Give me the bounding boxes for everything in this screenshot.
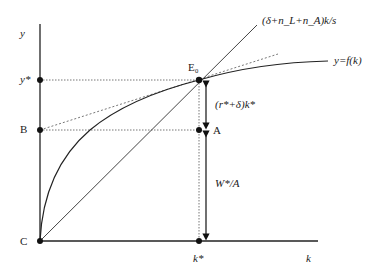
lower-segment-label: W*/A [215, 178, 239, 189]
x-axis-label: k [306, 253, 311, 264]
k-star-label: k* [193, 253, 203, 264]
a-label: A [213, 125, 221, 136]
ray-line [40, 25, 257, 241]
y-star-label: y* [20, 74, 30, 85]
point-c [37, 238, 43, 244]
ray-label: (δ+n_L+n_A)k/s [262, 15, 336, 26]
upper-segment-label: (r*+δ)k* [215, 99, 255, 110]
point-e0 [196, 77, 202, 83]
point-a [196, 127, 202, 133]
point-y-star [37, 77, 43, 83]
origin-label: C [20, 236, 27, 247]
production-curve [40, 61, 328, 241]
diagram-canvas [0, 0, 382, 273]
point-k-star [196, 238, 202, 244]
production-label: y=f(k) [334, 55, 362, 66]
y-axis-label: y [20, 28, 25, 39]
e0-label: E₀ [188, 62, 199, 73]
point-b [37, 127, 43, 133]
b-label: B [20, 124, 27, 135]
